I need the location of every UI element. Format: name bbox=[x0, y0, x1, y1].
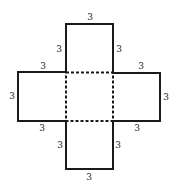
label-top-left: 3 bbox=[56, 44, 62, 54]
label-top-top: 3 bbox=[87, 12, 93, 22]
label-right-top: 3 bbox=[138, 61, 144, 71]
label-right-right: 3 bbox=[163, 92, 169, 102]
label-left-bottom: 3 bbox=[39, 123, 45, 133]
label-left-left: 3 bbox=[9, 91, 15, 101]
label-bottom-bottom: 3 bbox=[86, 172, 92, 182]
cube-net-diagram: 3 3 3 3 3 3 3 3 3 3 3 3 bbox=[0, 0, 177, 189]
center-square-dashed bbox=[66, 73, 113, 122]
label-bottom-right: 3 bbox=[115, 140, 121, 150]
label-top-right: 3 bbox=[116, 44, 122, 54]
label-right-bottom: 3 bbox=[134, 123, 140, 133]
label-left-top: 3 bbox=[40, 61, 46, 71]
label-bottom-left: 3 bbox=[57, 140, 63, 150]
outline bbox=[18, 24, 160, 169]
